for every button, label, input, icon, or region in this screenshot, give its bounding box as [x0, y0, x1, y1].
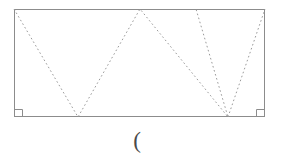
dotted-segment-bottom-vertex-to-top-right: [228, 9, 265, 117]
outer-rectangle: [15, 10, 265, 117]
dotted-zigzag-path: [14, 9, 228, 117]
bottom-left-right-angle-icon: [15, 110, 23, 117]
open-paren-label: (: [127, 126, 147, 156]
figure-stage: (: [0, 0, 281, 157]
bottom-right-right-angle-icon: [257, 110, 265, 117]
